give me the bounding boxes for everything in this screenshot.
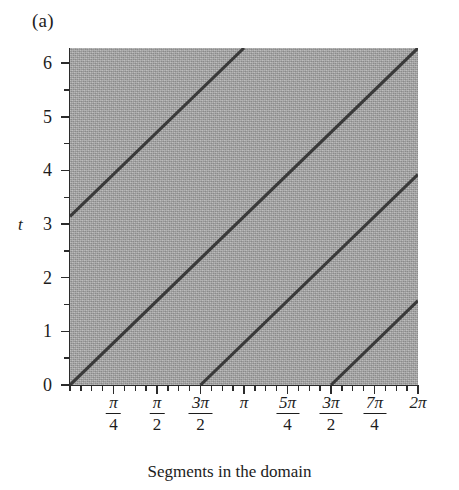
x-tick-label-denominator: 4 bbox=[370, 414, 379, 434]
characteristic-lines bbox=[70, 48, 418, 385]
y-tick-label: 2 bbox=[30, 269, 52, 287]
y-tick-minor bbox=[64, 89, 70, 90]
x-tick-label: π4 bbox=[106, 394, 121, 434]
y-tick-label: 4 bbox=[30, 161, 52, 179]
y-tick-minor bbox=[64, 197, 70, 198]
y-tick-minor bbox=[64, 304, 70, 305]
x-tick-label: 2π bbox=[409, 394, 426, 411]
y-tick-minor bbox=[64, 250, 70, 251]
y-tick-minor bbox=[64, 357, 70, 358]
panel-label: (a) bbox=[32, 10, 54, 32]
x-tick-label: π bbox=[240, 394, 249, 411]
x-tick-label: π2 bbox=[150, 394, 165, 434]
y-tick-major bbox=[61, 62, 70, 63]
x-tick-label-denominator: 2 bbox=[196, 414, 205, 434]
x-tick-label-denominator: 4 bbox=[283, 414, 292, 434]
x-tick-label: 7π4 bbox=[363, 394, 386, 434]
y-tick-major bbox=[61, 170, 70, 171]
y-tick-major bbox=[61, 277, 70, 278]
y-tick-label: 6 bbox=[30, 54, 52, 72]
x-tick-label-numerator: 3π bbox=[189, 394, 212, 414]
x-tick-minor bbox=[396, 386, 397, 391]
x-tick-minor bbox=[232, 386, 233, 391]
x-tick-minor bbox=[341, 386, 342, 391]
x-tick-label: 3π2 bbox=[319, 394, 342, 434]
x-tick-label-numerator: π bbox=[150, 394, 165, 414]
x-tick-label-text: 2π bbox=[409, 393, 426, 412]
characteristic-line-2 bbox=[70, 48, 418, 385]
x-tick-label-denominator: 2 bbox=[153, 414, 162, 434]
x-tick-minor bbox=[254, 386, 255, 391]
x-tick-label-text: π bbox=[240, 393, 249, 412]
y-tick-major bbox=[61, 116, 70, 117]
x-tick-minor bbox=[319, 386, 320, 391]
x-tick-minor bbox=[145, 386, 146, 391]
x-tick-minor bbox=[178, 386, 179, 391]
y-tick-label: 3 bbox=[30, 215, 52, 233]
x-tick-minor bbox=[135, 386, 136, 391]
y-tick-major bbox=[61, 331, 70, 332]
x-tick-minor bbox=[211, 386, 212, 391]
y-tick-label: 0 bbox=[30, 376, 52, 394]
x-tick-label-numerator: 5π bbox=[276, 394, 299, 414]
y-tick-label: 1 bbox=[30, 322, 52, 340]
x-tick-minor bbox=[298, 386, 299, 391]
characteristic-line-3 bbox=[201, 174, 419, 385]
figure-caption: Segments in the domain bbox=[0, 462, 459, 482]
x-tick-label-numerator: 7π bbox=[363, 394, 386, 414]
x-tick-minor bbox=[124, 386, 125, 391]
y-tick-label: 5 bbox=[30, 108, 52, 126]
x-tick-minor bbox=[309, 386, 310, 391]
x-tick-label-numerator: 3π bbox=[319, 394, 342, 414]
x-tick-label-numerator: π bbox=[106, 394, 121, 414]
x-tick-minor bbox=[80, 386, 81, 391]
x-tick-label: 3π2 bbox=[189, 394, 212, 434]
y-axis-line bbox=[69, 48, 70, 386]
y-tick-minor bbox=[64, 143, 70, 144]
x-tick-label-denominator: 4 bbox=[109, 414, 118, 434]
x-tick-minor bbox=[167, 386, 168, 391]
x-tick-minor bbox=[222, 386, 223, 391]
x-tick-label-denominator: 2 bbox=[327, 414, 336, 434]
x-tick-minor bbox=[406, 386, 407, 391]
x-tick-minor bbox=[265, 386, 266, 391]
x-tick-minor bbox=[352, 386, 353, 391]
figure-panel-a: (a) t 0123456 π4π23π2π5π43π27π42π Segmen… bbox=[0, 0, 459, 490]
y-tick-major bbox=[61, 223, 70, 224]
x-tick-minor bbox=[363, 386, 364, 391]
x-tick-label: 5π4 bbox=[276, 394, 299, 434]
x-tick-minor bbox=[385, 386, 386, 391]
characteristic-line-1 bbox=[70, 48, 244, 217]
y-axis-title: t bbox=[18, 215, 23, 235]
x-tick-minor bbox=[189, 386, 190, 391]
characteristic-line-4 bbox=[331, 301, 418, 385]
x-tick-minor bbox=[69, 386, 70, 391]
plot-area bbox=[70, 48, 418, 385]
x-tick-minor bbox=[102, 386, 103, 391]
x-tick-minor bbox=[276, 386, 277, 391]
x-tick-minor bbox=[91, 386, 92, 391]
